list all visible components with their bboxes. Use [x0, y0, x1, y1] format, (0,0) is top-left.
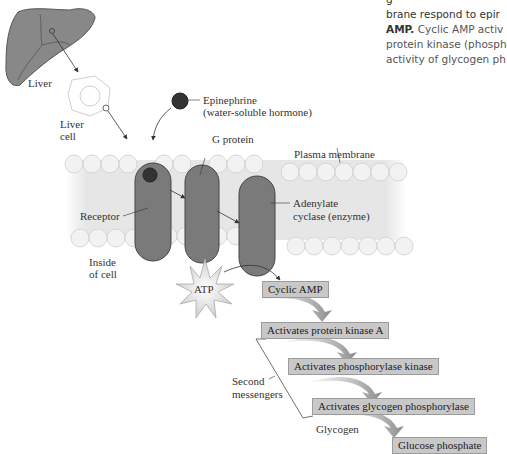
label-g-protein: G protein	[212, 133, 254, 146]
step-phosphorylase-kinase: Activates phosphorylase kinase	[288, 358, 439, 375]
caption-line-2-bold: AMP.	[386, 23, 414, 35]
label-epinephrine-sub: (water-soluble hormone)	[203, 106, 312, 119]
step-protein-kinase-a: Activates protein kinase A	[261, 322, 389, 339]
label-inside-sub: of cell	[89, 268, 117, 281]
label-atp: ATP	[194, 283, 214, 296]
label-messengers: messengers	[232, 388, 283, 401]
step-cyclic-amp: Cyclic AMP	[262, 281, 329, 298]
label-liver: Liver	[28, 77, 52, 90]
caption-line-1: brane respond to epir	[386, 7, 507, 22]
step-glycogen-phosphorylase: Activates glycogen phosphorylase	[312, 398, 475, 415]
label-glycogen: Glycogen	[316, 423, 359, 436]
bound-epinephrine	[143, 168, 157, 182]
g-protein	[185, 165, 219, 263]
step-glucose-phosphate: Glucose phosphate	[392, 437, 487, 454]
second-messengers-bracket	[256, 339, 313, 418]
label-liver-cell-2: cell	[60, 130, 76, 143]
label-second: Second	[232, 375, 264, 388]
caption-line-2: Cyclic AMP activ	[414, 23, 503, 35]
label-plasma-membrane: Plasma membrane	[294, 148, 375, 161]
epinephrine-molecule	[172, 93, 188, 109]
adenylate-cyclase	[239, 176, 275, 276]
label-adenylate: Adenylate	[293, 197, 338, 210]
label-adenylate-sub: cyclase (enzyme)	[293, 210, 370, 223]
liver-organ	[6, 9, 95, 86]
caption-line-3: protein kinase (phosph	[386, 37, 507, 52]
label-receptor: Receptor	[80, 210, 120, 223]
figure-caption: g brane respond to epir AMP. Cyclic AMP …	[386, 0, 507, 67]
caption-line-4: activity of glycogen ph	[386, 52, 507, 67]
